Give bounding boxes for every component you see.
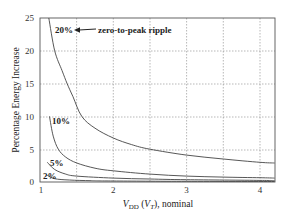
y-tick: 25 bbox=[25, 13, 35, 23]
y-tick-labels: 25 20 15 10 5 0 bbox=[25, 13, 35, 187]
series-label-5: 5% bbox=[50, 158, 64, 168]
series-label-2: 2% bbox=[43, 171, 57, 181]
y-tick: 5 bbox=[30, 145, 35, 155]
grid bbox=[40, 18, 275, 182]
y-tick: 20 bbox=[25, 46, 35, 56]
chart: 25 20 15 10 5 0 1 2 3 4 Percentage Energ… bbox=[0, 0, 291, 217]
series-line-20 bbox=[49, 18, 275, 163]
series-label-20: 20% bbox=[55, 25, 73, 35]
y-axis-label: Percentage Energy Increase bbox=[11, 47, 21, 152]
x-tick: 4 bbox=[258, 185, 263, 195]
plot-frame bbox=[40, 18, 275, 182]
y-tick: 10 bbox=[25, 112, 35, 122]
x-tick: 2 bbox=[111, 185, 116, 195]
series-line-10 bbox=[50, 116, 275, 178]
x-axis-label: VDD (VT), nominal bbox=[123, 199, 194, 211]
x-tick: 1 bbox=[39, 185, 44, 195]
y-tick: 0 bbox=[30, 177, 35, 187]
arrow-icon bbox=[74, 27, 96, 32]
annotation-text: zero-to-peak ripple bbox=[98, 25, 172, 35]
x-tick-labels: 1 2 3 4 bbox=[39, 185, 263, 195]
series-label-10: 10% bbox=[52, 116, 70, 126]
y-tick: 15 bbox=[25, 79, 35, 89]
x-tick: 3 bbox=[184, 185, 189, 195]
series-curves bbox=[47, 18, 274, 182]
